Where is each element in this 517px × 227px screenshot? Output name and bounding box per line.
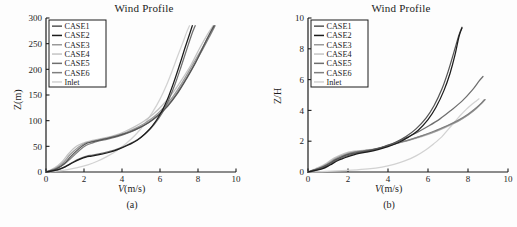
legend-label-case1: CASE1 <box>65 22 90 31</box>
y-tick-label: 8 <box>300 44 305 54</box>
x-tick-label: 10 <box>504 174 514 184</box>
y-tick-label: 2 <box>300 136 305 146</box>
panel-a-x-axis-label: V(m/s) <box>118 183 145 194</box>
x-tick-label: 0 <box>44 174 49 184</box>
legend-label-case6: CASE6 <box>327 69 352 78</box>
y-tick-label: 6 <box>300 75 305 85</box>
panel-b-y-axis-label: Z/H <box>272 88 283 104</box>
legend-label-case2: CASE2 <box>65 31 90 40</box>
panel-a-y-axis-label: Z(m) <box>12 89 23 110</box>
panel-b-caption: (b) <box>359 199 419 210</box>
y-tick-label: 300 <box>29 13 43 23</box>
x-tick-label: 2 <box>82 174 87 184</box>
y-tick-label: 0 <box>300 167 305 177</box>
legend-label-case6: CASE6 <box>65 69 90 78</box>
x-tick-label: 6 <box>426 174 431 184</box>
legend-label-case1: CASE1 <box>327 22 352 31</box>
x-tick-label: 8 <box>196 174 201 184</box>
y-tick-label: 10 <box>295 13 305 23</box>
x-tick-label: 8 <box>466 174 471 184</box>
legend-label-case3: CASE3 <box>65 41 90 50</box>
wind-profile-figure: Wind Profile 0501001502002503000246810CA… <box>0 0 517 227</box>
y-tick-label: 100 <box>29 116 43 126</box>
legend-label-case4: CASE4 <box>327 50 352 59</box>
legend-label-case5: CASE5 <box>65 59 90 68</box>
y-tick-label: 200 <box>29 65 43 75</box>
x-tick-label: 2 <box>346 174 351 184</box>
legend: CASE1CASE2CASE3CASE4CASE5CASE6Inlet <box>49 20 106 87</box>
x-tick-label: 10 <box>232 174 242 184</box>
legend-label-inlet: Inlet <box>65 78 81 87</box>
legend-label-case4: CASE4 <box>65 50 90 59</box>
panel-a-caption: (a) <box>102 199 162 210</box>
y-tick-label: 50 <box>33 142 43 152</box>
x-tick-label: 0 <box>306 174 311 184</box>
legend-label-case5: CASE5 <box>327 59 352 68</box>
legend: CASE1CASE2CASE3CASE4CASE5CASE6Inlet <box>311 20 368 87</box>
chart-panel-a: Wind Profile 0501001502002503000246810CA… <box>0 0 258 227</box>
panel-b-x-axis-label: V(m/s) <box>375 183 402 194</box>
chart-panel-b: Wind Profile 02468100246810CASE1CASE2CAS… <box>258 0 516 227</box>
y-tick-label: 250 <box>29 39 43 49</box>
y-tick-label: 150 <box>29 90 43 100</box>
x-tick-label: 6 <box>158 174 163 184</box>
legend-label-inlet: Inlet <box>327 78 343 87</box>
legend-label-case2: CASE2 <box>327 31 352 40</box>
y-tick-label: 0 <box>38 167 43 177</box>
legend-label-case3: CASE3 <box>327 41 352 50</box>
y-tick-label: 4 <box>300 106 305 116</box>
